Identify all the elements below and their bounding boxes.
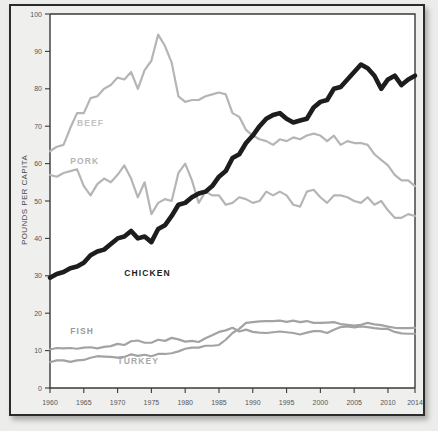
x-tick-label: 1960	[42, 399, 58, 406]
y-tick-label: 20	[34, 310, 42, 317]
y-tick-label: 10	[34, 347, 42, 354]
x-tick-label: 2005	[346, 399, 362, 406]
series-label-pork: PORK	[70, 156, 99, 166]
chart-screenshot: 0102030405060708090100196019651970197519…	[0, 0, 438, 431]
x-tick-label: 1990	[245, 399, 261, 406]
y-tick-label: 90	[34, 48, 42, 55]
series-label-beef: BEEF	[77, 118, 104, 128]
x-tick-label: 2000	[313, 399, 329, 406]
y-tick-label: 60	[34, 160, 42, 167]
x-tick-label: 2010	[380, 399, 396, 406]
y-tick-label: 30	[34, 272, 42, 279]
chart-canvas: 0102030405060708090100196019651970197519…	[0, 0, 438, 431]
x-tick-label: 1970	[110, 399, 126, 406]
y-tick-label: 40	[34, 235, 42, 242]
x-tick-label: 1985	[211, 399, 227, 406]
y-tick-label: 0	[38, 385, 42, 392]
y-tick-label: 100	[30, 11, 42, 18]
y-axis-title: POUNDS PER CAPITA	[20, 155, 29, 245]
meat-consumption-line-chart: 0102030405060708090100196019651970197519…	[0, 0, 438, 431]
y-tick-label: 70	[34, 123, 42, 130]
x-tick-label: 1975	[144, 399, 160, 406]
x-tick-label: 1965	[76, 399, 92, 406]
series-label-turkey: TURKEY	[118, 356, 160, 366]
x-tick-label: 1980	[177, 399, 193, 406]
series-label-chicken: CHICKEN	[124, 268, 170, 278]
y-tick-label: 50	[34, 198, 42, 205]
y-tick-label: 80	[34, 85, 42, 92]
x-tick-label: 2014	[407, 399, 423, 406]
series-label-fish: FISH	[70, 326, 94, 336]
x-tick-label: 1995	[279, 399, 295, 406]
